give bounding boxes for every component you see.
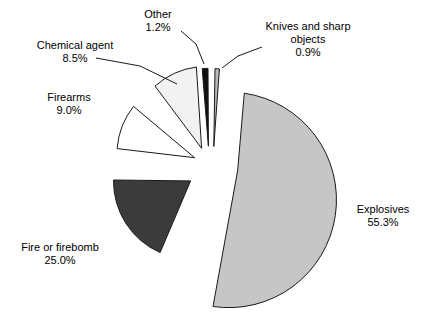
pie-label-knives-name-line1: Knives and sharp: [248, 20, 368, 33]
pie-label-firearms-value: 9.0%: [28, 104, 110, 117]
pie-label-firearms: Firearms 9.0%: [28, 91, 110, 117]
pie-slice-knives-and-sharp-objects[interactable]: [214, 69, 220, 147]
pie-label-chemical-agent-value: 8.5%: [20, 52, 130, 65]
pie-slice-other[interactable]: [202, 68, 208, 146]
pie-label-explosives-value: 55.3%: [347, 216, 419, 229]
pie-label-chemical-agent: Chemical agent 8.5%: [20, 39, 130, 65]
pie-slice-explosives[interactable]: [213, 93, 336, 307]
pie-label-explosives: Explosives 55.3%: [347, 203, 419, 229]
pie-chart: Other 1.2% Knives and sharp objects 0.9%…: [0, 0, 423, 313]
pie-label-chemical-agent-name: Chemical agent: [20, 39, 130, 52]
pie-label-fire-or-firebomb-value: 25.0%: [4, 254, 116, 267]
pie-label-fire-or-firebomb: Fire or firebomb 25.0%: [4, 241, 116, 267]
pie-label-other: Other 1.2%: [128, 8, 188, 34]
pie-label-other-name: Other: [128, 8, 188, 21]
pie-label-knives: Knives and sharp objects 0.9%: [248, 20, 368, 59]
pie-label-explosives-name: Explosives: [347, 203, 419, 216]
pie-slice-fire-or-firebomb[interactable]: [113, 180, 190, 253]
leader-line-other: [181, 31, 204, 64]
pie-label-other-value: 1.2%: [128, 21, 188, 34]
pie-label-knives-value: 0.9%: [248, 46, 368, 59]
pie-label-fire-or-firebomb-name: Fire or firebomb: [4, 241, 116, 254]
pie-label-firearms-name: Firearms: [28, 91, 110, 104]
pie-label-knives-name-line2: objects: [248, 33, 368, 46]
